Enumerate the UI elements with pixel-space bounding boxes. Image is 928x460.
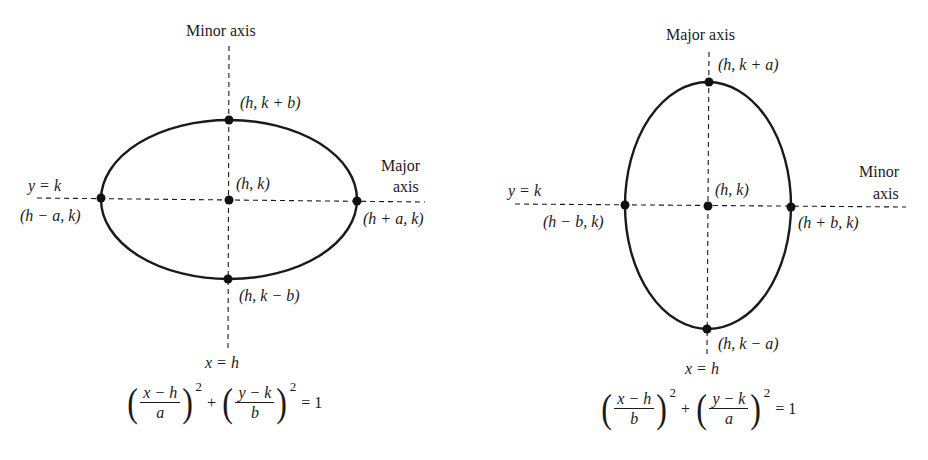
left-paren: ( bbox=[601, 389, 612, 429]
vertex-dot-top bbox=[225, 116, 234, 125]
horizontal-line-label: y = k bbox=[28, 177, 61, 195]
center-dot bbox=[225, 196, 234, 205]
numerator: x − h bbox=[614, 390, 654, 408]
exponent: 2 bbox=[670, 385, 677, 401]
vertical-line-label: x = h bbox=[205, 354, 239, 372]
minor-axis-label-line2: axis bbox=[873, 185, 899, 203]
center-dot bbox=[704, 202, 713, 211]
vertex-dot-left bbox=[621, 201, 630, 210]
fraction-x: x − h a bbox=[140, 384, 180, 423]
vertex-dot-top bbox=[705, 78, 714, 87]
right-vertex-label: (h + b, k) bbox=[798, 214, 859, 232]
exponent: 2 bbox=[764, 385, 771, 401]
horizontal-ellipse-equation: ( x − h a ) 2 + ( y − k b ) 2 = 1 bbox=[126, 383, 327, 423]
fraction-y: y − k b bbox=[235, 384, 274, 423]
vertical-ellipse-equation: ( x − h b ) 2 + ( y − k a ) 2 = 1 bbox=[600, 389, 801, 429]
numerator: y − k bbox=[235, 384, 274, 402]
vertex-dot-right bbox=[353, 197, 362, 206]
minor-axis-label-line1: Minor bbox=[859, 163, 899, 181]
left-vertex-label: (h − b, k) bbox=[543, 213, 604, 231]
right-paren: ) bbox=[657, 389, 668, 429]
bottom-vertex-label: (h, k − a) bbox=[718, 335, 779, 353]
denominator: a bbox=[709, 408, 748, 429]
fraction-y: y − k a bbox=[709, 390, 748, 429]
left-paren: ( bbox=[696, 389, 707, 429]
numerator: y − k bbox=[709, 390, 748, 408]
major-axis-label: Major axis bbox=[666, 26, 735, 44]
major-axis-label-line1: Major bbox=[381, 157, 420, 175]
major-axis-label-line2: axis bbox=[393, 178, 419, 196]
horizontal-line-label: y = k bbox=[508, 182, 541, 200]
vertex-dot-bottom bbox=[224, 275, 233, 284]
denominator: a bbox=[140, 402, 180, 423]
left-vertex-label: (h − a, k) bbox=[20, 207, 81, 225]
vertical-ellipse-figure bbox=[515, 52, 906, 356]
numerator: x − h bbox=[140, 384, 180, 402]
vertex-dot-left bbox=[97, 194, 106, 203]
equals-one: = 1 bbox=[301, 394, 322, 412]
equals-one: = 1 bbox=[775, 400, 796, 418]
exponent: 2 bbox=[290, 379, 297, 395]
left-paren: ( bbox=[222, 383, 233, 423]
plus-sign: + bbox=[207, 394, 216, 412]
top-vertex-label: (h, k + a) bbox=[718, 56, 779, 74]
denominator: b bbox=[614, 408, 654, 429]
minor-axis-label: Minor axis bbox=[186, 22, 256, 40]
fraction-x: x − h b bbox=[614, 390, 654, 429]
vertex-dot-bottom bbox=[703, 325, 712, 334]
right-paren: ) bbox=[277, 383, 288, 423]
bottom-vertex-label: (h, k − b) bbox=[239, 287, 300, 305]
center-label: (h, k) bbox=[715, 181, 749, 199]
horizontal-ellipse-figure bbox=[37, 46, 425, 350]
right-paren: ) bbox=[751, 389, 762, 429]
right-paren: ) bbox=[183, 383, 194, 423]
left-paren: ( bbox=[127, 383, 138, 423]
vertex-dot-right bbox=[787, 203, 796, 212]
denominator: b bbox=[235, 402, 274, 423]
center-label: (h, k) bbox=[236, 175, 270, 193]
exponent: 2 bbox=[196, 379, 203, 395]
vertical-line-label: x = h bbox=[685, 360, 719, 378]
right-vertex-label: (h + a, k) bbox=[363, 210, 424, 228]
plus-sign: + bbox=[681, 400, 690, 418]
top-vertex-label: (h, k + b) bbox=[240, 94, 301, 112]
